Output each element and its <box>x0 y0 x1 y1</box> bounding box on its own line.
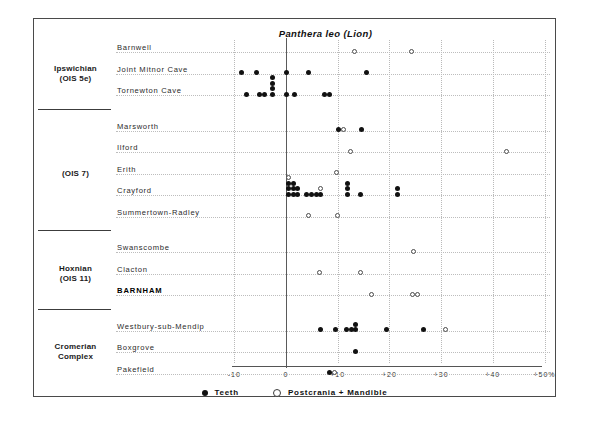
data-point-teeth <box>286 181 291 186</box>
row-baseline <box>116 52 550 53</box>
row-baseline <box>116 295 550 296</box>
x-tick-label: +30 <box>434 371 449 378</box>
group-label-line: (OIS 7) <box>38 169 113 179</box>
gridline-+10 <box>338 40 339 363</box>
site-label-barnham: BARNHAM <box>117 286 166 295</box>
data-point-teeth <box>336 127 341 132</box>
legend-item-postcrania: Postcrania + Mandible <box>273 388 387 397</box>
site-label-ilford: Ilford <box>117 143 141 152</box>
gridline-+40 <box>493 40 494 363</box>
data-point-teeth <box>270 75 275 80</box>
data-point-postcrania <box>335 213 340 218</box>
group-separator <box>38 230 111 231</box>
data-point-teeth <box>291 181 296 186</box>
group-separator <box>38 109 111 110</box>
site-label-crayford: Crayford <box>117 186 155 195</box>
row-baseline <box>116 195 550 196</box>
group-label-line: Cromerian <box>38 342 113 352</box>
site-label-barnwell: Barnwell <box>117 43 155 52</box>
row-baseline <box>116 174 550 175</box>
data-point-postcrania <box>504 149 509 154</box>
row-baseline <box>116 152 550 153</box>
group-label-cromerian: CromerianComplex <box>38 342 113 362</box>
data-point-postcrania <box>318 186 323 191</box>
data-point-postcrania <box>286 175 291 180</box>
x-axis-line <box>232 366 542 367</box>
x-tick-label: +20 <box>382 371 397 378</box>
group-label-line: Complex <box>38 352 113 362</box>
data-point-postcrania <box>369 292 374 297</box>
data-point-postcrania <box>306 213 311 218</box>
legend-label-postcrania: Postcrania + Mandible <box>288 388 387 397</box>
data-point-teeth <box>244 92 249 97</box>
chart-legend: Teeth Postcrania + Mandible <box>0 388 589 397</box>
x-tick-label: +40 <box>485 371 500 378</box>
data-point-teeth <box>295 192 300 197</box>
row-baseline <box>116 274 550 275</box>
data-point-postcrania <box>317 270 322 275</box>
site-label-boxgrove: Boxgrove <box>117 343 158 352</box>
gridline-+20 <box>389 40 390 363</box>
data-point-teeth <box>359 127 364 132</box>
legend-label-teeth: Teeth <box>215 388 239 397</box>
x-tick-label: +50% <box>533 371 555 378</box>
group-label--ois-7-: (OIS 7) <box>38 169 113 179</box>
x-tick-label: 0 <box>284 371 289 378</box>
data-point-teeth <box>286 186 291 191</box>
data-point-teeth <box>254 70 259 75</box>
site-label-tornewton-cave: Tornewton Cave <box>117 86 185 95</box>
row-baseline <box>116 352 550 353</box>
data-point-teeth <box>295 186 300 191</box>
x-tick-label: -10 <box>228 371 241 378</box>
data-point-teeth <box>353 322 358 327</box>
data-point-postcrania <box>348 149 353 154</box>
site-label-pakefield: Pakefield <box>117 365 158 374</box>
zero-reference-line <box>286 38 287 368</box>
data-point-teeth <box>395 186 400 191</box>
data-point-teeth <box>262 92 267 97</box>
data-point-postcrania <box>358 270 363 275</box>
data-point-teeth <box>270 92 275 97</box>
data-point-teeth <box>284 92 289 97</box>
data-point-teeth <box>318 192 323 197</box>
data-point-teeth <box>306 70 311 75</box>
data-point-teeth <box>364 70 369 75</box>
group-label-line: Hoxnian <box>38 264 113 274</box>
data-point-teeth <box>345 186 350 191</box>
row-baseline <box>116 131 550 132</box>
data-point-teeth <box>345 181 350 186</box>
gridline-+30 <box>441 40 442 363</box>
row-baseline <box>116 217 550 218</box>
group-label-hoxnian: Hoxnian(OIS 11) <box>38 264 113 284</box>
data-point-postcrania <box>334 170 339 175</box>
data-point-teeth <box>257 92 262 97</box>
group-label-line: (OIS 5e) <box>38 74 113 84</box>
data-point-teeth <box>318 327 323 332</box>
gridline-+50% <box>545 40 546 363</box>
row-baseline <box>116 252 550 253</box>
data-point-teeth <box>286 192 291 197</box>
data-point-postcrania <box>411 249 416 254</box>
data-point-postcrania <box>409 49 414 54</box>
data-point-teeth <box>333 327 338 332</box>
data-point-teeth <box>358 192 363 197</box>
data-point-teeth <box>270 86 275 91</box>
data-point-teeth <box>292 92 297 97</box>
group-label-line: Ipswichian <box>38 64 113 74</box>
data-point-teeth <box>270 81 275 86</box>
open-circle-icon <box>273 389 281 397</box>
group-label-line: (OIS 11) <box>38 274 113 284</box>
filled-circle-icon <box>202 390 208 396</box>
site-label-marsworth: Marsworth <box>117 122 162 131</box>
site-label-erith: Erith <box>117 165 139 174</box>
data-point-postcrania <box>341 127 346 132</box>
data-point-teeth <box>353 327 358 332</box>
row-baseline <box>116 74 550 75</box>
data-point-teeth <box>353 349 358 354</box>
data-point-teeth <box>304 192 309 197</box>
site-label-summertown-radley: Summertown-Radley <box>117 208 203 217</box>
data-point-postcrania <box>352 49 357 54</box>
legend-item-teeth: Teeth <box>202 388 239 397</box>
data-point-teeth <box>327 92 332 97</box>
row-baseline <box>116 95 550 96</box>
